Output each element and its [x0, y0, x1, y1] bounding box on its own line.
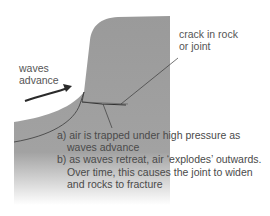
caption-b-line3: and rocks to fracture — [57, 178, 261, 190]
waves-advance-arrow-icon — [25, 88, 68, 101]
caption-b-line2: Over time, this causes the joint to wide… — [57, 166, 261, 178]
caption-b-line1: b) as waves retreat, air ‘explodes’ outw… — [57, 153, 261, 165]
crack-label: crack in rock or joint — [179, 28, 238, 52]
waves-advance-line1: waves — [19, 62, 59, 74]
caption: a) air is trapped under high pressure as… — [57, 129, 261, 190]
caption-a-line1: a) air is trapped under high pressure as — [57, 129, 261, 141]
arrowhead-icon — [63, 84, 72, 92]
crack-label-line2: or joint — [179, 40, 238, 52]
caption-a-line2: waves advance — [57, 141, 261, 153]
waves-advance-label: waves advance — [19, 62, 59, 86]
waves-advance-line2: advance — [19, 74, 59, 86]
crack-label-line1: crack in rock — [179, 28, 238, 40]
